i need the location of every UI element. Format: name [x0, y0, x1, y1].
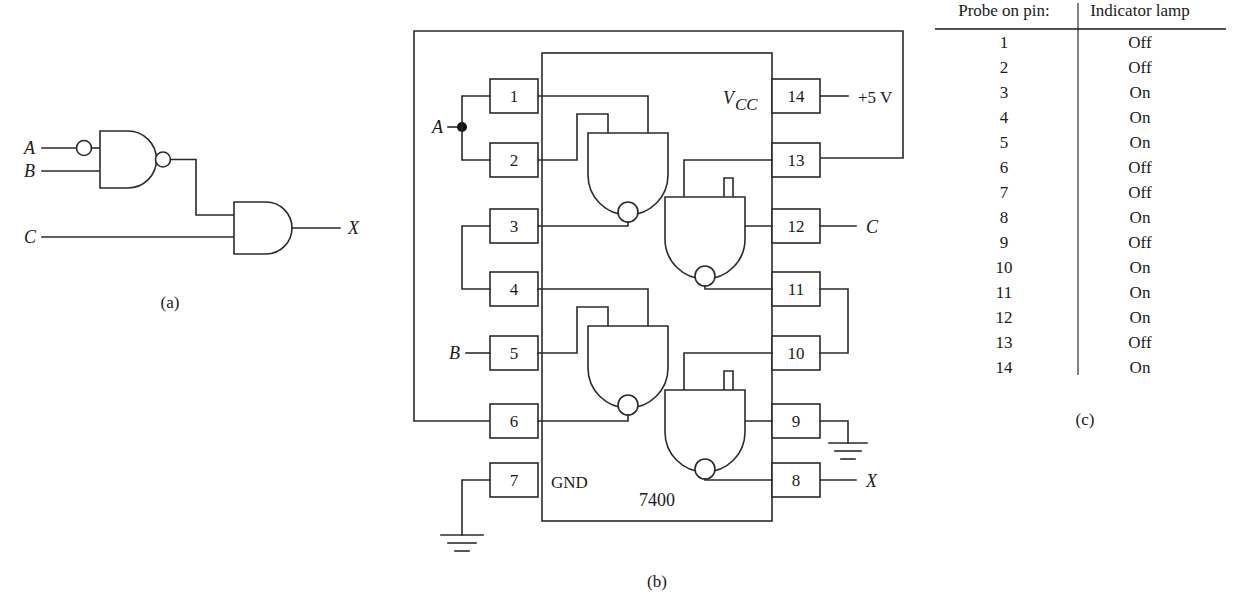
- input-label-b-panel-b: B: [449, 343, 460, 363]
- logic-circuit-figure: A B C X (a) 7400: [0, 0, 1237, 603]
- pin-number-6: 6: [510, 412, 519, 431]
- cell-pin: 7: [1000, 183, 1009, 202]
- caption-b: (b): [647, 572, 667, 591]
- table-row: 13 Off: [996, 333, 1152, 352]
- gnd-label: GND: [551, 473, 588, 492]
- table-row: 7 Off: [1000, 183, 1152, 202]
- pin-number-10: 10: [788, 344, 805, 363]
- gate-and-1: [234, 202, 292, 254]
- pin-number-13: 13: [788, 151, 805, 170]
- cell-pin: 9: [1000, 233, 1009, 252]
- cell-pin: 11: [996, 283, 1012, 302]
- cell-lamp: Off: [1128, 158, 1152, 177]
- cell-lamp: Off: [1128, 233, 1152, 252]
- wire-a-to-pin2: [462, 127, 490, 160]
- pin-number-7: 7: [510, 471, 519, 490]
- wire-pin3-to-pin4: [462, 226, 490, 289]
- table-row: 2 Off: [1000, 58, 1152, 77]
- table-row: 14 On: [996, 358, 1151, 377]
- cell-pin: 6: [1000, 158, 1009, 177]
- table-header-lamp: Indicator lamp: [1090, 1, 1190, 20]
- cell-lamp: On: [1130, 108, 1151, 127]
- output-bubble-icon-ic-gate3: [695, 266, 715, 286]
- table-row: 5 On: [1000, 133, 1151, 152]
- input-label-b: B: [24, 161, 35, 181]
- cell-lamp: Off: [1128, 58, 1152, 77]
- cell-lamp: Off: [1128, 333, 1152, 352]
- cell-lamp: On: [1130, 258, 1151, 277]
- cell-pin: 13: [996, 333, 1013, 352]
- output-bubble-icon-ic-gate4: [695, 459, 715, 479]
- wire-pin11-to-pin10: [820, 289, 848, 353]
- signal-label-c-panel-b: C: [866, 217, 879, 237]
- pin-number-8: 8: [792, 471, 801, 490]
- table-row: 11 On: [996, 283, 1151, 302]
- panel-b: 7400 GND V CC 1 2 3 4 5 6 7 14 13 12 11 …: [414, 31, 903, 591]
- panel-a: A B C X (a): [23, 131, 360, 312]
- cell-lamp: On: [1130, 208, 1151, 227]
- cell-pin: 8: [1000, 208, 1009, 227]
- cell-pin: 14: [996, 358, 1014, 377]
- output-bubble-icon-gate1: [156, 152, 171, 167]
- wire-a-to-pin1: [462, 96, 490, 127]
- table-row: 10 On: [996, 258, 1151, 277]
- caption-a: (a): [161, 293, 180, 312]
- cell-lamp: Off: [1128, 33, 1152, 52]
- cell-pin: 4: [1000, 108, 1009, 127]
- wire-pin9-to-ground: [820, 421, 848, 443]
- pin-number-11: 11: [788, 280, 804, 299]
- input-label-a: A: [23, 138, 36, 158]
- table-row: 3 On: [1000, 83, 1151, 102]
- pin-number-9: 9: [792, 412, 801, 431]
- cell-lamp: On: [1130, 83, 1151, 102]
- output-label-x-panel-b: X: [865, 471, 878, 491]
- wire-pin7-to-ground: [462, 480, 490, 535]
- vcc-subscript: CC: [735, 95, 758, 114]
- table-row: 9 Off: [1000, 233, 1152, 252]
- cell-pin: 3: [1000, 83, 1009, 102]
- cell-lamp: Off: [1128, 183, 1152, 202]
- cell-lamp: On: [1130, 308, 1151, 327]
- table-header-pin: Probe on pin:: [958, 1, 1050, 20]
- pin-number-1: 1: [510, 87, 519, 106]
- input-label-c: C: [24, 227, 37, 247]
- caption-c: (c): [1076, 410, 1095, 429]
- wire-gate1-to-gate2: [171, 160, 235, 216]
- panel-c: Probe on pin: Indicator lamp 1 Off 2 Off…: [935, 1, 1226, 429]
- cell-pin: 12: [996, 308, 1013, 327]
- cell-lamp: On: [1130, 283, 1151, 302]
- pin-number-12: 12: [788, 217, 805, 236]
- table-row: 6 Off: [1000, 158, 1152, 177]
- cell-lamp: On: [1130, 358, 1151, 377]
- cell-lamp: On: [1130, 133, 1151, 152]
- ic-part-number: 7400: [639, 490, 675, 510]
- cell-pin: 10: [996, 258, 1013, 277]
- output-bubble-icon-ic-gate1: [618, 202, 638, 222]
- supply-label-5v: +5 V: [858, 88, 893, 107]
- pin-number-5: 5: [510, 344, 519, 363]
- input-label-a-panel-b: A: [431, 117, 444, 137]
- pin-number-3: 3: [510, 217, 519, 236]
- output-label-x-panel-a: X: [347, 218, 360, 238]
- output-bubble-icon-ic-gate2: [618, 395, 638, 415]
- pin-number-4: 4: [510, 280, 519, 299]
- cell-pin: 2: [1000, 58, 1009, 77]
- table-row: 12 On: [996, 308, 1151, 327]
- cell-pin: 5: [1000, 133, 1009, 152]
- pin-number-2: 2: [510, 151, 519, 170]
- ground-symbol-pin9: [829, 443, 867, 459]
- ground-symbol-pin7: [441, 535, 483, 551]
- table-row: 1 Off: [1000, 33, 1152, 52]
- cell-pin: 1: [1000, 33, 1009, 52]
- gate-nand-1: [100, 131, 156, 188]
- input-bubble-icon: [77, 141, 92, 156]
- pin-number-14: 14: [788, 87, 806, 106]
- table-row: 4 On: [1000, 108, 1151, 127]
- table-row: 8 On: [1000, 208, 1151, 227]
